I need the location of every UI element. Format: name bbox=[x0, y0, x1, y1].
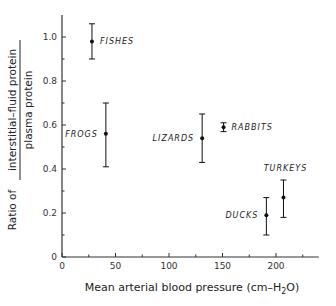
point-label: RABBITS bbox=[232, 123, 273, 132]
y-tick-label: 0.4 bbox=[43, 164, 58, 174]
x-tick-label: 0 bbox=[59, 261, 65, 271]
point-label: LIZARDS bbox=[153, 134, 195, 143]
data-point-turkeys: TURKEYS bbox=[264, 164, 308, 217]
marker-dot bbox=[200, 136, 204, 140]
marker-dot bbox=[104, 132, 108, 136]
data-point-fishes: FISHES bbox=[89, 24, 134, 59]
marker-dot bbox=[281, 196, 285, 200]
data-point-ducks: DUCKS bbox=[225, 198, 269, 235]
data-points: FISHESFROGSLIZARDSRABBITSDUCKSTURKEYS bbox=[65, 24, 307, 235]
x-axis-label: Mean arterial blood pressure (cm–H2O) bbox=[85, 281, 300, 296]
y-tick-label: 0.8 bbox=[43, 76, 58, 86]
y-tick-label: 0.2 bbox=[43, 208, 57, 218]
data-point-lizards: LIZARDS bbox=[153, 114, 206, 162]
data-point-frogs: FROGS bbox=[65, 103, 109, 167]
y-label-numerator: interstitial–fluid protein bbox=[6, 49, 18, 171]
x-tick-label: 50 bbox=[110, 261, 122, 271]
y-label-denominator: plasma protein bbox=[22, 71, 34, 150]
x-tick-label: 100 bbox=[160, 261, 177, 271]
point-label: TURKEYS bbox=[264, 164, 308, 173]
scatter-chart: 05010015020000.20.40.60.81.0 FISHESFROGS… bbox=[0, 0, 336, 306]
x-tick-label: 150 bbox=[214, 261, 231, 271]
marker-dot bbox=[222, 125, 226, 129]
y-tick-label: 1.0 bbox=[43, 32, 58, 42]
y-tick-label: 0.6 bbox=[43, 120, 58, 130]
y-label-prefix: Ratio of bbox=[6, 189, 18, 230]
marker-dot bbox=[264, 213, 268, 217]
data-point-rabbits: RABBITS bbox=[221, 123, 273, 132]
marker-dot bbox=[90, 39, 94, 43]
point-label: FISHES bbox=[100, 37, 134, 46]
y-tick-label: 0 bbox=[51, 252, 57, 262]
point-label: FROGS bbox=[65, 130, 98, 139]
y-axis-label: Ratio of interstitial–fluid protein plas… bbox=[6, 40, 34, 230]
point-label: DUCKS bbox=[225, 211, 258, 220]
x-tick-label: 200 bbox=[267, 261, 284, 271]
